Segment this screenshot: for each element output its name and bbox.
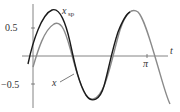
xsp-label-subscript: sp <box>68 10 75 18</box>
x-curve-label: x <box>51 77 57 88</box>
chart-canvas: 0.5 −0.5 π t x sp x <box>0 0 180 112</box>
xsp-label: x <box>61 5 67 16</box>
x-label-leader-line <box>60 74 74 82</box>
solution-curve-x <box>33 11 170 104</box>
x-tick-label-pi: π <box>143 58 149 69</box>
steady-state-curve-xsp <box>28 10 130 100</box>
t-axis-label: t <box>170 45 173 56</box>
y-tick-label-neg-0.5: −0.5 <box>1 79 19 90</box>
y-tick-label-0.5: 0.5 <box>5 22 18 33</box>
